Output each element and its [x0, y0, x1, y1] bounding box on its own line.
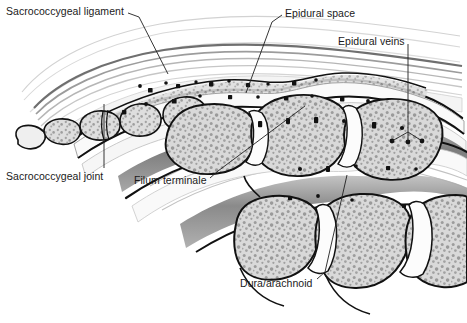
illustration-canvas: Sacrococcygeal ligament Epidural space E… — [0, 0, 467, 323]
label-sacrococcygeal-ligament: Sacrococcygeal ligament — [6, 6, 124, 17]
sacral-bodies — [166, 95, 443, 180]
label-epidural-veins: Epidural veins — [338, 36, 405, 47]
label-epidural-space: Epidural space — [285, 8, 355, 19]
label-filum-terminale: Filum terminale — [134, 175, 207, 186]
label-sacrococcygeal-joint: Sacrococcygeal joint — [6, 171, 103, 182]
label-dura-arachnoid: Dura/arachnoid — [240, 278, 313, 289]
spine-sagittal-diagram — [0, 0, 467, 323]
